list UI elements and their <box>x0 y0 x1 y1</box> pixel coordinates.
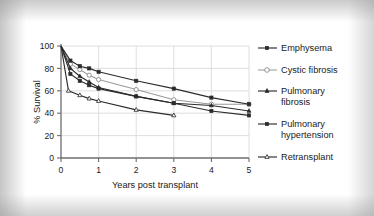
filled-square-icon <box>265 46 268 49</box>
y-tick-label-80: 80 <box>44 64 54 74</box>
open-triangle-icon <box>265 155 269 159</box>
legend-label-pulmonary-hypertension: Pulmonary <box>281 119 325 129</box>
legend-item-cystic-fibrosis[interactable]: Cystic fibrosis <box>258 65 338 75</box>
filled-square-icon <box>265 122 268 125</box>
series-line-pulmonary-fibrosis <box>61 46 249 111</box>
y-tick-label-40: 40 <box>44 108 54 118</box>
legend-item-pulmonary-fibrosis[interactable]: Pulmonary fibrosis <box>258 86 325 107</box>
x-axis-title: Years post transplant <box>112 180 198 190</box>
legend-item-emphysema[interactable]: Emphysema <box>258 43 333 53</box>
figure-card: 100 80 60 40 20 0 0 1 2 3 4 5 Years post… <box>0 0 374 216</box>
series-pulmonary-fibrosis <box>61 46 251 112</box>
y-tick-label-60: 60 <box>44 86 54 96</box>
legend-item-pulmonary-hypertension[interactable]: Pulmonary hypertension <box>258 119 334 140</box>
legend-label-retransplant: Retransplant <box>281 152 334 162</box>
y-tick-label-20: 20 <box>44 131 54 141</box>
x-tick-label-0: 0 <box>59 165 64 175</box>
legend-label-pulmonary-hypertension-line2: hypertension <box>281 130 334 140</box>
x-tick-labels: 0 1 2 3 4 5 <box>59 165 252 175</box>
chart-svg: 100 80 60 40 20 0 0 1 2 3 4 5 Years post… <box>0 0 374 216</box>
x-tick-label-5: 5 <box>247 165 252 175</box>
legend-label-cystic-fibrosis: Cystic fibrosis <box>281 65 338 75</box>
x-tick-label-1: 1 <box>96 165 101 175</box>
legend-label-pulmonary-fibrosis: Pulmonary <box>281 86 325 96</box>
legend-label-emphysema: Emphysema <box>281 43 333 53</box>
y-tick-label-100: 100 <box>40 41 55 51</box>
grid-horizontal <box>61 46 249 136</box>
survival-chart: 100 80 60 40 20 0 0 1 2 3 4 5 Years post… <box>0 0 374 216</box>
y-tick-label-0: 0 <box>49 153 54 163</box>
chart-legend: Emphysema Cystic fibrosis Pulmonary fibr… <box>258 43 338 162</box>
x-tick-label-3: 3 <box>171 165 176 175</box>
x-tick-label-4: 4 <box>209 165 214 175</box>
legend-label-pulmonary-fibrosis-line2: fibrosis <box>281 97 311 107</box>
open-circle-icon <box>265 68 270 73</box>
y-axis-title: % Survival <box>32 80 42 123</box>
legend-item-retransplant[interactable]: Retransplant <box>258 152 334 162</box>
x-tick-label-2: 2 <box>134 165 139 175</box>
